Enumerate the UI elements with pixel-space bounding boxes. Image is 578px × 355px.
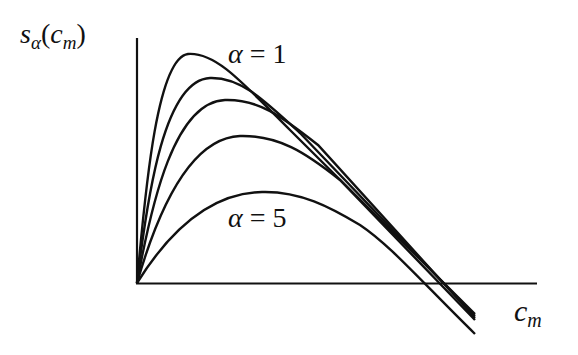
- curve-alpha-4: [137, 136, 475, 320]
- curve-alpha-3: [137, 100, 475, 318]
- annotation-alpha-5: α = 5: [228, 202, 287, 234]
- y-label-close-paren: ): [76, 18, 85, 49]
- plot-area: [0, 0, 578, 355]
- annotation-equals: =: [243, 38, 273, 69]
- x-axis-label: cm: [514, 294, 542, 332]
- x-label-main: c: [514, 294, 527, 327]
- y-label-arg-subscript: m: [63, 32, 77, 53]
- chart-figure: sα(cm) cm α = 1 α = 5: [0, 0, 578, 355]
- y-label-main: s: [20, 18, 31, 49]
- curve-alpha-2: [137, 78, 475, 316]
- y-label-subscript: α: [31, 32, 41, 53]
- annotation-alpha-1: α = 1: [228, 38, 287, 70]
- annotation-value: 5: [273, 202, 287, 233]
- annotation-equals: =: [243, 202, 273, 233]
- annotation-alpha-symbol: α: [228, 202, 243, 233]
- y-label-arg: c: [50, 18, 62, 49]
- curve-alpha-1: [137, 54, 475, 314]
- y-axis-label: sα(cm): [20, 18, 86, 54]
- annotation-alpha-symbol: α: [228, 38, 243, 69]
- y-label-open-paren: (: [41, 18, 50, 49]
- annotation-value: 1: [273, 38, 287, 69]
- x-label-subscript: m: [527, 309, 541, 331]
